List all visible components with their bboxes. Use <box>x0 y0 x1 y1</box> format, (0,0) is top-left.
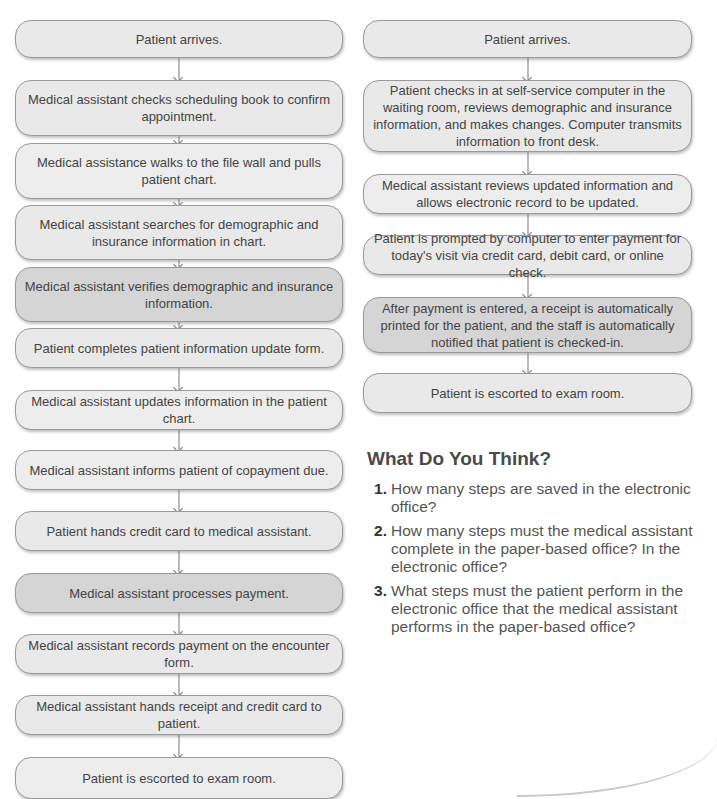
question-text: What steps must the patient perform in t… <box>391 582 697 636</box>
arrow-down-icon <box>179 735 180 757</box>
electronic-step-4: Patient is prompted by computer to enter… <box>363 235 692 275</box>
electronic-step-1: Patient arrives. <box>363 20 692 58</box>
question-item: 1. How many steps are saved in the elect… <box>367 480 697 516</box>
paper-step-6: Patient completes patient information up… <box>15 328 343 368</box>
electronic-step-2: Patient checks in at self-service comput… <box>363 80 692 152</box>
question-text: How many steps are saved in the electron… <box>391 480 697 516</box>
question-number: 1. <box>367 480 387 516</box>
paper-step-1: Patient arrives. <box>15 20 343 58</box>
paper-step-13: Patient is escorted to exam room. <box>15 757 343 799</box>
paper-step-9: Patient hands credit card to medical ass… <box>15 511 343 551</box>
arrow-down-icon <box>527 353 528 373</box>
electronic-step-6: Patient is escorted to exam room. <box>363 373 692 413</box>
paper-step-4: Medical assistant searches for demograph… <box>15 205 343 260</box>
questions-list: 1. How many steps are saved in the elect… <box>367 480 697 636</box>
paper-step-3: Medical assistance walks to the file wal… <box>15 143 343 199</box>
questions-heading: What Do You Think? <box>367 448 697 470</box>
arrow-down-icon <box>179 430 180 450</box>
arrow-down-icon <box>179 58 180 80</box>
paper-step-10: Medical assistant processes payment. <box>15 573 343 613</box>
electronic-step-3: Medical assistant reviews updated inform… <box>363 174 692 214</box>
electronic-step-5: After payment is entered, a receipt is a… <box>363 297 692 353</box>
arrow-down-icon <box>179 136 180 143</box>
question-item: 2. How many steps must the medical assis… <box>367 522 697 576</box>
arrow-down-icon <box>179 674 180 695</box>
question-number: 2. <box>367 522 387 576</box>
question-item: 3. What steps must the patient perform i… <box>367 582 697 636</box>
paper-step-5: Medical assistant verifies demographic a… <box>15 267 343 322</box>
questions-section: What Do You Think? 1. How many steps are… <box>367 448 697 642</box>
arrow-down-icon <box>179 260 180 267</box>
question-number: 3. <box>367 582 387 636</box>
paper-step-7: Medical assistant updates information in… <box>15 390 343 430</box>
arrow-down-icon <box>179 551 180 573</box>
paper-step-12: Medical assistant hands receipt and cred… <box>15 695 343 735</box>
arrow-down-icon <box>179 490 180 511</box>
question-text: How many steps must the medical assistan… <box>391 522 697 576</box>
page-curl-decoration <box>517 735 717 797</box>
paper-step-8: Medical assistant informs patient of cop… <box>15 450 343 490</box>
arrow-down-icon <box>179 368 180 390</box>
paper-step-11: Medical assistant records payment on the… <box>15 634 343 674</box>
paper-step-2: Medical assistant checks scheduling book… <box>15 80 343 136</box>
arrow-down-icon <box>527 275 528 297</box>
arrow-down-icon <box>527 58 528 80</box>
arrow-down-icon <box>527 152 528 174</box>
arrow-down-icon <box>179 613 180 634</box>
